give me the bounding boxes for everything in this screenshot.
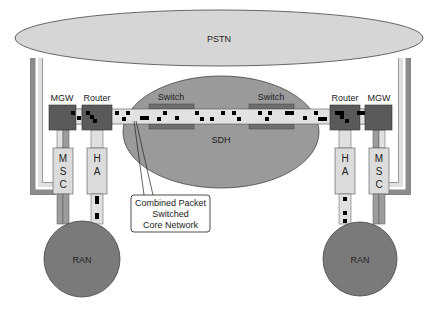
switch-left-label: Switch <box>158 92 185 102</box>
right-ha-letter-h: H <box>341 153 348 164</box>
right-msc-letter-m: M <box>375 153 383 164</box>
right-msc-letter-c: C <box>375 179 382 190</box>
sdh-network: SDH <box>123 76 319 188</box>
callout-line-1: Combined Packet <box>135 198 207 208</box>
left-ha-ran-link <box>91 194 103 224</box>
right-router: Router <box>330 93 360 130</box>
left-msc-letter-c: C <box>59 179 66 190</box>
left-router: Router <box>82 93 112 130</box>
left-msc-letter-m: M <box>59 153 67 164</box>
left-ran: RAN <box>44 221 120 297</box>
switch-right-label: Switch <box>258 92 285 102</box>
right-ran-label: RAN <box>350 255 369 265</box>
callout-combined-packet-core: Combined Packet Switched Core Network <box>131 195 210 232</box>
left-mgw: MGW <box>49 93 76 130</box>
left-mgw-label: MGW <box>51 93 74 103</box>
right-ha-letter-a: A <box>342 166 349 177</box>
left-mgw-msc-link <box>57 130 69 148</box>
left-msc-letter-s: S <box>60 166 67 177</box>
left-router-label: Router <box>83 93 110 103</box>
right-msc-letter-s: S <box>376 166 383 177</box>
packet-marker <box>357 111 366 115</box>
callout-line-3: Core Network <box>143 220 199 230</box>
left-msc-ran-link <box>57 194 69 224</box>
right-mgw-label: MGW <box>368 93 391 103</box>
right-router-ha-link <box>339 130 351 148</box>
left-ha-letter-a: A <box>94 166 101 177</box>
right-mgw: MGW <box>365 93 392 130</box>
right-msc: M S C <box>369 148 389 194</box>
packet-marker <box>77 116 81 120</box>
left-ran-label: RAN <box>72 255 91 265</box>
left-msc: M S C <box>53 148 73 194</box>
packet-backbone <box>74 109 367 124</box>
pstn-network: PSTN <box>15 10 423 66</box>
network-diagram: PSTN SDH Switch Switch <box>0 0 441 312</box>
callout-line-2: Switched <box>152 209 189 219</box>
pstn-label: PSTN <box>207 34 231 44</box>
left-router-ha-link <box>91 130 103 148</box>
right-mgw-msc-link <box>373 130 385 148</box>
left-ha: H A <box>87 148 107 194</box>
right-ran: RAN <box>323 222 397 296</box>
left-ha-letter-h: H <box>93 153 100 164</box>
sdh-label: SDH <box>211 135 230 145</box>
right-ha-ran-link <box>339 194 351 224</box>
right-router-label: Router <box>331 93 358 103</box>
right-ha: H A <box>335 148 355 194</box>
right-msc-ran-link <box>373 194 385 224</box>
